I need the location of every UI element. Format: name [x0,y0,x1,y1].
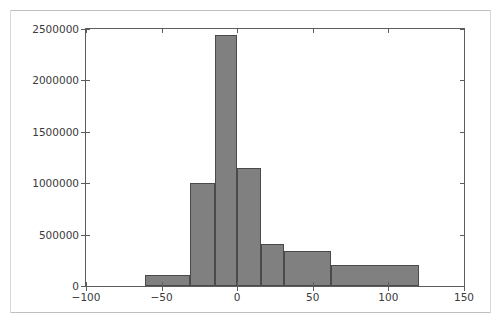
x-tick-mark-inner [388,282,389,286]
y-axis-tick-label: 1000000 [32,177,79,189]
page-border-right [490,10,491,313]
x-tick-mark-top [162,29,163,33]
y-axis-tick-label: 1500000 [32,126,79,138]
y-tick-mark-right [460,80,464,81]
y-tick-mark-right [460,235,464,236]
y-tick-mark-right [460,132,464,133]
histogram-bar [331,265,419,286]
y-tick-mark-inner [86,80,90,81]
x-tick-mark-inner [313,282,314,286]
y-tick-mark-inner [86,183,90,184]
histogram-bar [261,244,284,286]
y-axis-tick-label: 2000000 [32,74,79,86]
histogram-figure: 05000001000000150000020000002500000 −100… [0,0,501,322]
x-axis-tick-label: 50 [306,291,319,303]
y-tick-mark-right [460,183,464,184]
x-tick-mark-inner [162,282,163,286]
plot-area: 05000001000000150000020000002500000 −100… [85,28,465,287]
y-axis-tick-label: 2500000 [32,23,79,35]
x-tick-mark-top [388,29,389,33]
histogram-bar [190,183,214,286]
x-tick-mark-top [86,29,87,33]
histogram-bar [145,275,190,286]
x-tick-mark-top [464,29,465,33]
x-axis-tick-label: −50 [151,291,173,303]
x-tick-mark-inner [464,282,465,286]
page-divider-bottom [10,312,491,313]
x-tick-mark-inner [86,282,87,286]
histogram-bar [284,251,331,286]
page-border-left [10,10,11,313]
histogram-bar [215,35,238,286]
x-axis-tick-label: −100 [72,291,101,303]
y-tick-mark-inner [86,132,90,133]
page-divider-top [10,10,491,11]
x-tick-mark-inner [237,282,238,286]
x-tick-mark-top [237,29,238,33]
histogram-bar [237,168,261,286]
x-axis-tick-label: 150 [454,291,474,303]
x-axis-tick-label: 100 [378,291,398,303]
y-axis-tick-label: 500000 [39,229,79,241]
x-tick-mark-top [313,29,314,33]
y-tick-mark-inner [86,235,90,236]
x-axis-tick-label: 0 [234,291,241,303]
